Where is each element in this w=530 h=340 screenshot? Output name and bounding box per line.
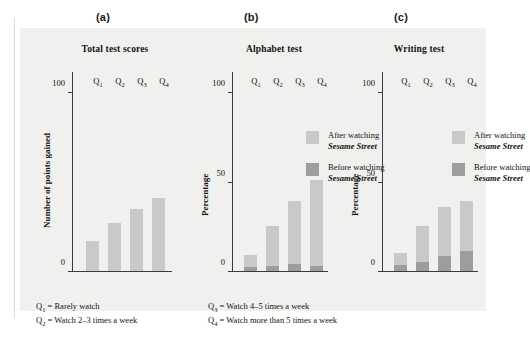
x-tick-label-a-q4: Q4	[151, 76, 177, 88]
panel-letter-row: (a) (b) (c)	[20, 11, 486, 27]
bar-c-q1-before	[394, 265, 407, 271]
chart-title-c: Writing test	[332, 44, 496, 54]
panel-letter-c: (c)	[394, 11, 408, 23]
bar-a-q4-after	[152, 198, 165, 271]
bar-b-q4-before	[310, 266, 323, 271]
bar-group-a	[73, 72, 172, 271]
bar-b-q3-after	[288, 201, 301, 271]
y-tick-label-c-0: 0	[371, 257, 375, 267]
legend-after-line2-c: Sesame Street	[474, 141, 523, 151]
bar-c-q2-before	[416, 262, 429, 271]
chart-panel-c: Writing test Percentage 0 50 100 After w…	[332, 28, 486, 311]
panel-letter-a: (a)	[96, 11, 110, 23]
y-tick-label-b-50: 50	[217, 168, 226, 178]
footnote-q2: Q2 = Watch 2–3 times a week	[36, 315, 137, 329]
footnote-column-left: Q1 = Rarely watch Q2 = Watch 2–3 times a…	[36, 301, 137, 329]
bar-group-c	[383, 72, 478, 271]
bar-a-q3-after	[130, 209, 143, 271]
plot-area-a: 0 100 Q1 Q2 Q3 Q4	[72, 72, 172, 272]
x-axis-a	[72, 271, 172, 272]
bar-c-q3-before	[438, 256, 451, 271]
x-tick-label-c-q4: Q4	[459, 76, 485, 88]
bar-b-q4-after	[310, 180, 323, 271]
y-axis-label-c: Percentage	[350, 174, 360, 216]
bar-b-q1-before	[244, 267, 257, 271]
chart-panel-a: Total test scores Number of points gaine…	[20, 28, 186, 311]
chart-panel-b: Alphabet test Percentage 0 50 100 After …	[178, 28, 338, 311]
legend-before-line2-c: Sesame Street	[474, 173, 523, 183]
footnote-column-right: Q3 = Watch 4–5 times a week Q4 = Watch m…	[208, 301, 337, 329]
y-tick-c-0	[378, 271, 383, 272]
chart-title-b: Alphabet test	[178, 44, 354, 54]
footnote-q4: Q4 = Watch more than 5 times a week	[208, 315, 337, 329]
bar-b-q2-before	[266, 266, 279, 271]
plot-area-c: 0 50 100 After watching Sesame Street Be…	[382, 72, 478, 272]
bar-group-b	[233, 72, 328, 271]
bar-a-q2-after	[108, 223, 121, 271]
y-tick-label-b-100: 100	[212, 78, 225, 88]
plot-area-b: 0 50 100 After watching Sesame Street Be…	[232, 72, 328, 272]
y-axis-label-a: Number of points gained	[42, 133, 52, 228]
bar-c-q4-before	[460, 251, 473, 271]
page-left-rule	[14, 18, 15, 318]
bar-b-q3-before	[288, 264, 301, 271]
y-tick-label-c-50: 50	[367, 168, 376, 178]
footnote-q3: Q3 = Watch 4–5 times a week	[208, 301, 337, 315]
chart-title-a: Total test scores	[20, 44, 198, 54]
y-tick-label-c-100: 100	[362, 78, 375, 88]
figure-panel: Total test scores Number of points gaine…	[20, 28, 486, 311]
y-tick-b-0	[228, 271, 233, 272]
legend-before-line1-c: Before watching	[474, 162, 530, 172]
y-tick-label-a-0: 0	[61, 257, 65, 267]
legend-after-line1-c: After watching	[474, 130, 525, 140]
y-tick-label-a-100: 100	[52, 78, 65, 88]
y-tick-label-b-0: 0	[221, 257, 225, 267]
footnote-q1: Q1 = Rarely watch	[36, 301, 137, 315]
y-tick-a-0	[68, 271, 73, 272]
panel-letter-b: (b)	[244, 11, 259, 23]
bar-a-q1-after	[86, 241, 99, 271]
x-axis-b	[232, 271, 328, 272]
bar-b-q2-after	[266, 226, 279, 271]
x-axis-c	[382, 271, 478, 272]
y-axis-label-b: Percentage	[200, 174, 210, 216]
